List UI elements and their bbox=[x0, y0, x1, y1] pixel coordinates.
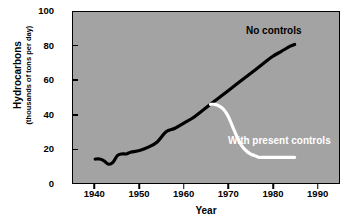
y-tick-mark bbox=[72, 114, 78, 116]
plot-curves bbox=[73, 12, 339, 183]
x-tick-label: 1990 bbox=[307, 189, 328, 199]
series-line-with-present-controls bbox=[210, 104, 294, 157]
x-tick-label: 1980 bbox=[262, 189, 283, 199]
y-tick-label: 0 bbox=[49, 179, 54, 189]
y-tick-label: 20 bbox=[43, 144, 54, 154]
y-tick-label: 60 bbox=[43, 75, 54, 85]
y-tick-mark bbox=[72, 149, 78, 151]
x-tick-label: 1970 bbox=[218, 189, 239, 199]
series-line-no-controls bbox=[95, 44, 295, 164]
x-axis-title: Year bbox=[195, 205, 216, 216]
y-tick-label: 100 bbox=[38, 6, 54, 16]
y-tick-label: 40 bbox=[43, 110, 54, 120]
y-tick-mark bbox=[72, 45, 78, 47]
x-tick-label: 1940 bbox=[84, 189, 105, 199]
x-tick-label: 1950 bbox=[128, 189, 149, 199]
y-tick-label: 80 bbox=[43, 41, 54, 51]
series-label-no-controls: No controls bbox=[246, 26, 302, 36]
plot-area bbox=[72, 11, 340, 184]
x-tick-label: 1960 bbox=[173, 189, 194, 199]
chart-figure: Hydrocarbons (thousands of tons per day)… bbox=[0, 0, 353, 220]
y-axis-tick-labels: 020406080100 bbox=[0, 0, 68, 220]
series-label-with-present-controls: With present controls bbox=[228, 136, 331, 146]
y-tick-mark bbox=[72, 79, 78, 81]
